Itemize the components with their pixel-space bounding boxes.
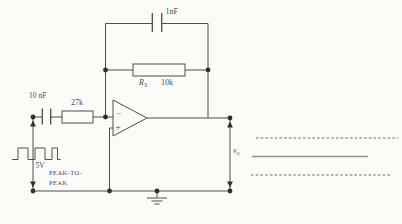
feedback-resistor-name-label: R3 (139, 79, 147, 87)
output-node-dot (228, 116, 233, 121)
schematic-canvas: 1nF R3 10k 10 nF 27k − + 5V PEAK-TO- PEA… (0, 0, 402, 224)
source-desc-line2: PEAK (49, 180, 68, 187)
opamp-noninverting-wire (110, 128, 114, 191)
feedback-right-junction-dot (206, 68, 211, 73)
noninverting-ground-dot (107, 189, 112, 194)
feedback-capacitor-label: 1nF (166, 8, 178, 16)
input-capacitor-label: 10 nF (29, 92, 46, 100)
output-voltage-label: vo (233, 147, 240, 155)
input-node-dot (31, 115, 36, 120)
feedback-left-junction-dot (103, 68, 108, 73)
input-resistor-body (62, 111, 93, 123)
square-wave-symbol (12, 148, 61, 160)
source-ground-dot (31, 189, 36, 194)
output-ground-dot (228, 189, 233, 194)
inverting-node-dot (103, 115, 108, 120)
source-arrow-down (30, 182, 36, 188)
circuit-svg (0, 0, 402, 224)
opamp-inverting-sign: − (116, 109, 121, 118)
vo-arrow-up (227, 122, 233, 128)
input-resistor-label: 27k (71, 99, 83, 107)
feedback-resistor-value-label: 10k (161, 79, 173, 87)
feedback-resistor-body (133, 64, 185, 76)
feedback-capacitor-plates (152, 13, 161, 32)
source-desc-line1: PEAK-TO- (49, 170, 82, 177)
source-voltage-label: 5V (36, 162, 45, 170)
vo-arrow-down (227, 182, 233, 188)
input-capacitor-plates (42, 109, 50, 125)
source-arrow-up (30, 121, 36, 127)
ground-symbol-dot (155, 189, 160, 194)
opamp-noninverting-sign: + (116, 123, 121, 132)
